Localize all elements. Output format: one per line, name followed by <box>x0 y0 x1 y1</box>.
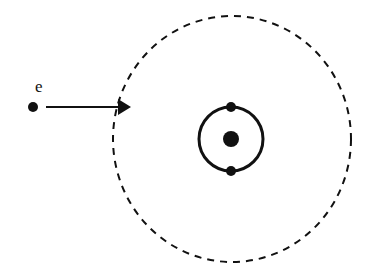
atom-scattering-diagram: e <box>0 0 369 275</box>
arrow-head-icon <box>118 99 131 115</box>
orbital-electron-top <box>226 102 236 112</box>
electron-label: e <box>35 77 43 96</box>
orbital-electron-bottom <box>226 166 236 176</box>
incident-electron <box>28 102 38 112</box>
nucleus <box>223 131 239 147</box>
